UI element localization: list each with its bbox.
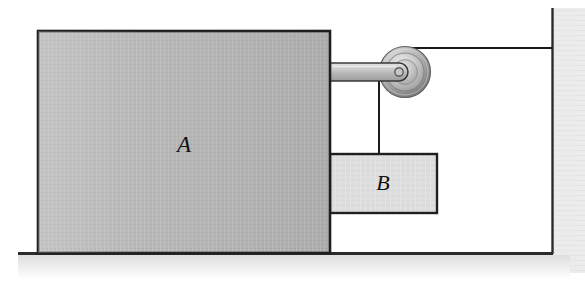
block-b-label: B (376, 170, 389, 195)
rod-axle-hole (395, 68, 403, 76)
block-b: B (330, 154, 437, 213)
ground-surface (18, 254, 570, 280)
wall-shadow-band (553, 8, 585, 273)
diagram-canvas: B A (0, 0, 585, 281)
block-a-label: A (175, 132, 192, 157)
pulley-bracket-rod (330, 63, 408, 81)
block-a: A (38, 31, 330, 253)
wall (553, 8, 585, 273)
physics-diagram-figure: B A (0, 0, 585, 281)
ground-shadow (18, 255, 570, 279)
